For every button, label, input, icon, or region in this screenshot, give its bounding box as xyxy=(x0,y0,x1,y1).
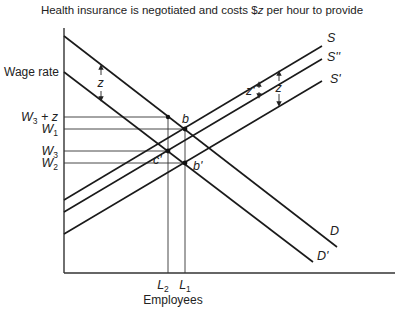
label-z-supply: z xyxy=(275,81,283,95)
point-c-prime xyxy=(166,149,171,154)
demand-curve-d xyxy=(64,36,337,247)
point-b-prime xyxy=(183,161,188,166)
supply-gap-z-arrow: z xyxy=(275,73,283,104)
supply-gap-z-prime-arrow: z' xyxy=(245,84,259,98)
label-d-prime: D' xyxy=(317,249,329,263)
tick-l2: L2 xyxy=(157,278,169,294)
label-b-prime: b' xyxy=(193,159,203,173)
label-d: D xyxy=(330,224,339,238)
diagram-title: Health insurance is negotiated and costs… xyxy=(41,4,363,16)
tick-w1: W1 xyxy=(41,122,58,138)
label-z-prime: z' xyxy=(245,84,255,98)
label-z-demand: z xyxy=(97,76,105,90)
point-w3z-l2 xyxy=(166,115,170,119)
label-c-prime: c' xyxy=(153,153,162,167)
label-s-prime: S' xyxy=(330,72,341,86)
labor-market-diagram: Health insurance is negotiated and costs… xyxy=(0,0,404,310)
label-b: b xyxy=(182,112,189,126)
tick-l1: L1 xyxy=(179,278,191,294)
demand-curve-d-prime xyxy=(64,72,313,262)
point-b xyxy=(183,127,188,132)
demand-gap-z-arrow: z xyxy=(97,67,105,99)
supply-curve-s-prime xyxy=(64,81,322,234)
supply-curve-s xyxy=(64,46,322,200)
y-axis-label: Wage rate xyxy=(4,65,59,79)
x-axis-label: Employees xyxy=(143,293,202,307)
label-s-double-prime: S'' xyxy=(327,50,341,64)
label-s: S xyxy=(327,31,336,45)
